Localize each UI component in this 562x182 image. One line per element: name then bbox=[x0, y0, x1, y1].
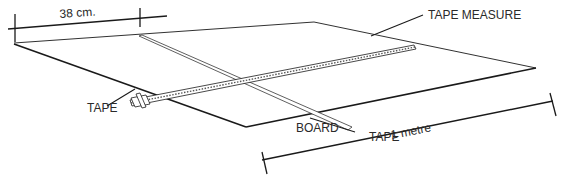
width-dimension-label: 38 cm. bbox=[59, 6, 96, 20]
tape-measure-label: TAPE MEASURE bbox=[428, 9, 521, 21]
length-dimension-end-tick bbox=[550, 93, 556, 116]
board-measurement-diagram: 38 cm. TAPE MEASURE TAPE TAPE BOARD 1 me… bbox=[0, 0, 562, 182]
diagram-drawing bbox=[0, 0, 562, 182]
tape-left-label: TAPE bbox=[87, 102, 117, 114]
board-label: BOARD bbox=[296, 122, 339, 134]
tape-measure-strip bbox=[130, 45, 416, 106]
